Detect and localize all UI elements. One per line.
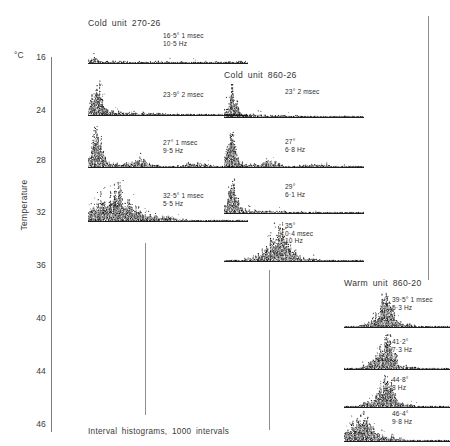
axis-tick-44: 44 [20,366,46,376]
histogram-label-trace-23: 23° 2 msec [285,88,320,96]
label-line: 5·5 Hz [163,200,204,208]
axis-title: Temperature [19,160,29,250]
histogram-baseline [224,261,364,262]
label-line: 46·4° [392,410,412,418]
histogram-label-trace-41-2: 41·2°7·3 Hz [392,338,412,353]
label-line: 16·5° 1 msec [163,32,204,40]
group-title-cold-unit-270-26: Cold unit 270-26 [88,18,161,28]
histogram-baseline [344,327,450,328]
label-line: 35° [285,222,313,230]
label-line: 0·4 msec [285,230,313,238]
axis-tick-16: 16 [20,52,46,62]
label-line: 8 Hz [392,384,409,392]
label-line: 23·9° 2 msec [163,91,204,99]
axis-tick-24: 24 [20,105,46,115]
label-line: 23° 2 msec [285,88,320,96]
histogram-label-trace-35: 35°0·4 msec10 Hz [285,222,313,245]
label-line: 32·5° 1 msec [163,192,204,200]
vertical-rule-2 [269,270,270,430]
histogram-label-trace-44-8: 44·8°8 Hz [392,376,409,391]
label-line: 9·5 Hz [163,147,198,155]
group-title-cold-unit-860-26: Cold unit 860-26 [224,70,297,80]
temperature-axis-line [51,57,52,432]
label-line: 5·3 Hz [392,304,433,312]
histogram-label-trace-23-9: 23·9° 2 msec [163,91,204,99]
histogram-label-trace-27: 27° 1 msec9·5 Hz [163,139,198,154]
axis-tick-32: 32 [20,207,46,217]
histogram-label-trace-16-5: 16·5° 1 msec10·5 Hz [163,32,204,47]
vertical-rule-3 [428,16,429,280]
histogram-baseline [344,441,450,442]
label-line: 27° 1 msec [163,139,198,147]
histogram-label-trace-46-4: 46·4°9·8 Hz [392,410,412,425]
vertical-rule-1 [145,243,146,415]
histogram-baseline [344,407,450,408]
group-title-warm-unit-860-20: Warm unit 860-20 [344,278,422,288]
histogram-baseline [224,213,364,214]
figure-canvas: °C Temperature 1624283236404446 Cold uni… [0,0,450,446]
label-line: 10 Hz [285,237,313,245]
histogram-baseline [88,63,248,64]
axis-tick-36: 36 [20,260,46,270]
label-line: 7·3 Hz [392,346,412,354]
axis-tick-40: 40 [20,313,46,323]
label-line: 9·8 Hz [392,418,412,426]
label-line: 6·1 Hz [285,191,305,199]
histogram-baseline [224,117,364,118]
label-line: 44·8° [392,376,409,384]
label-line: 6·8 Hz [285,146,305,154]
label-line: 27° [285,138,305,146]
histogram-baseline [344,369,450,370]
histogram-label-trace-32-5: 32·5° 1 msec5·5 Hz [163,192,204,207]
histogram-label-trace-29: 29°6·1 Hz [285,183,305,198]
label-line: 29° [285,183,305,191]
histogram-baseline [224,167,364,168]
label-line: 41·2° [392,338,412,346]
figure-caption: Interval histograms, 1000 intervals [88,427,229,436]
histogram-label-trace-27b: 27°6·8 Hz [285,138,305,153]
label-line: 39·5° 1 msec [392,296,433,304]
axis-tick-28: 28 [20,155,46,165]
label-line: 10·5 Hz [163,40,204,48]
histogram-label-trace-39-5: 39·5° 1 msec5·3 Hz [392,296,433,311]
axis-tick-46: 46 [20,419,46,429]
